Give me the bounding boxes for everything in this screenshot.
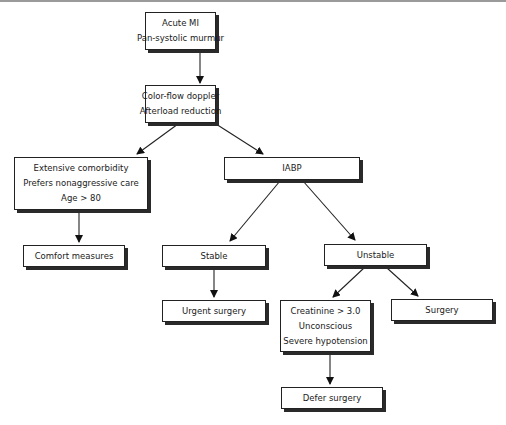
node-surgery: Surgery (391, 299, 493, 321)
node-line: Urgent surgery (182, 304, 246, 319)
node-line: Unstable (357, 248, 395, 263)
node-line: IABP (282, 161, 301, 176)
node-comorbidity: Extensive comorbidity Prefers nonaggress… (14, 157, 148, 210)
arrow-doppler-to-iabp (216, 124, 263, 154)
arrow-iabp-to-unstable (303, 181, 355, 240)
node-line: Acute MI (162, 16, 199, 31)
arrow-unstable-to-contraindications (333, 268, 364, 297)
node-line: Extensive comorbidity (34, 161, 129, 176)
node-line: Age > 80 (61, 191, 101, 206)
node-line: Unconscious (299, 319, 352, 334)
node-line: Comfort measures (35, 249, 114, 264)
node-unstable: Unstable (324, 244, 427, 266)
flow-arrows (0, 0, 506, 425)
node-urgent-surgery: Urgent surgery (162, 300, 266, 322)
node-line: Creatinine > 3.0 (291, 304, 361, 319)
node-line: Afterload reduction (140, 104, 222, 119)
node-stable: Stable (162, 245, 266, 267)
node-line: Surgery (425, 303, 458, 318)
node-contraindications: Creatinine > 3.0 Unconscious Severe hypo… (280, 300, 371, 352)
node-line: Defer surgery (303, 391, 362, 406)
node-line: Prefers nonaggressive care (23, 176, 138, 191)
arrow-doppler-to-comorbidity (137, 124, 178, 154)
arrow-iabp-to-stable (230, 181, 280, 241)
node-iabp: IABP (224, 157, 360, 180)
node-line: Color-flow doppler (142, 89, 219, 104)
arrow-unstable-to-surgery (387, 268, 418, 296)
node-doppler: Color-flow doppler Afterload reduction (145, 85, 216, 123)
node-comfort-measures: Comfort measures (23, 245, 125, 267)
node-acute-mi: Acute MI Pan-systolic murmur (145, 12, 216, 50)
node-line: Stable (201, 249, 228, 264)
node-defer-surgery: Defer surgery (281, 387, 383, 409)
node-line: Severe hypotension (283, 334, 367, 349)
node-line: Pan-systolic murmur (137, 31, 224, 46)
